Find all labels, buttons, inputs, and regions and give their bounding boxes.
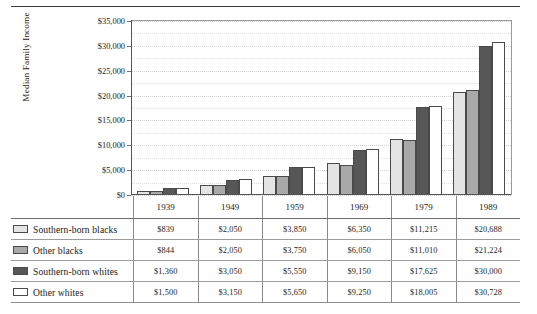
table-header-corner [11,196,133,218]
legend-label: Other blacks [33,245,83,256]
table-cell-value: $3,050 [198,261,263,281]
bar [353,150,366,195]
column-header-year: 1969 [327,196,392,218]
y-axis-title: Median Family Income [21,0,31,127]
bar [416,107,429,195]
table-cell-value: $844 [133,240,198,260]
table-cell-value: $1,500 [133,282,198,302]
table-cell-value: $839 [133,219,198,239]
data-table: 193919491959196919791989Southern-born bl… [11,196,520,303]
table-row: Southern-born whites$1,360$3,050$5,550$9… [11,261,520,281]
column-header-year: 1979 [391,196,456,218]
table-header-row: 193919491959196919791989 [11,196,520,218]
column-header-year: 1989 [456,196,521,218]
table-cell-value: $17,625 [391,261,456,281]
bar [479,46,492,195]
bar [492,42,505,195]
legend-label: Southern-born whites [33,266,118,277]
bar [390,139,403,195]
y-tick-label: $30,000 [55,41,131,50]
bar [276,176,289,195]
table-cell-value: $30,728 [456,282,521,302]
column-header-year: 1939 [133,196,198,218]
table-cell-value: $11,010 [391,240,456,260]
table-cell-value: $5,650 [262,282,327,302]
bar-group [321,21,384,195]
table-cell-value: $3,150 [198,282,263,302]
bar [340,165,353,195]
table-row: Other blacks$844$2,050$3,750$6,050$11,01… [11,240,520,260]
bar [263,176,276,195]
y-tick-label: $25,000 [55,66,131,75]
y-tick-label: $5,000 [55,166,131,175]
bar-group [448,21,511,195]
legend-label: Southern-born blacks [33,224,117,235]
y-tick-label: $10,000 [55,141,131,150]
legend-swatch-icon [13,246,28,254]
table-cell-value: $20,688 [456,219,521,239]
bar [239,179,252,195]
table-cell-value: $9,150 [327,261,392,281]
legend-swatch-icon [13,225,28,233]
table-cell-value: $3,750 [262,240,327,260]
table-row-rule [11,302,520,303]
legend-swatch-icon [13,267,28,275]
legend-swatch-icon [13,288,28,296]
bar-group [194,21,257,195]
bar [466,90,479,196]
figure-top-rule [11,6,520,7]
plot-area: $0$5,000$10,000$15,000$20,000$25,000$30,… [131,20,512,195]
legend-entry: Southern-born whites [11,261,133,281]
column-header-year: 1949 [198,196,263,218]
legend-label: Other whites [33,287,84,298]
bar-group [384,21,447,195]
table-cell-value: $18,005 [391,282,456,302]
table-cell-value: $11,215 [391,219,456,239]
legend-entry: Other blacks [11,240,133,260]
bar [327,163,340,195]
y-tick-label: $35,000 [55,17,131,26]
table-cell-value: $9,250 [327,282,392,302]
table-cell-value: $21,224 [456,240,521,260]
bar [366,149,379,195]
table-cell-value: $30,000 [456,261,521,281]
table-row: Other whites$1,500$3,150$5,650$9,250$18,… [11,282,520,302]
bar-group [258,21,321,195]
table-cell-value: $5,550 [262,261,327,281]
bar [429,106,442,196]
table-row: Southern-born blacks$839$2,050$3,850$6,3… [11,219,520,239]
y-tick-label: $20,000 [55,91,131,100]
legend-entry: Southern-born blacks [11,219,133,239]
legend-entry: Other whites [11,282,133,302]
bar [289,167,302,195]
y-axis-line [131,20,132,195]
table-cell-value: $3,850 [262,219,327,239]
y-tick-label: $15,000 [55,116,131,125]
table-cell-value: $6,350 [327,219,392,239]
bar [453,92,466,195]
column-header-year: 1959 [262,196,327,218]
table-cell-value: $1,360 [133,261,198,281]
table-cell-value: $6,050 [327,240,392,260]
bar-group [131,21,194,195]
x-axis-line [131,194,511,195]
table-cell-value: $2,050 [198,240,263,260]
figure: Median Family Income $0$5,000$10,000$15,… [0,0,537,314]
bar [302,167,315,195]
bar-groups [131,21,511,195]
table-cell-value: $2,050 [198,219,263,239]
bar [226,180,239,195]
bar [403,140,416,195]
